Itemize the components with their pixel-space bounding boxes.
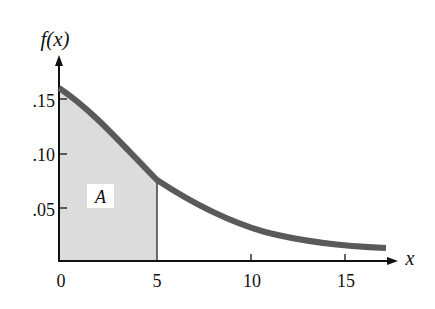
x-tick-label: 15 [337, 271, 355, 291]
x-tick-label: 10 [243, 271, 261, 291]
y-tick-label: .15 [33, 91, 56, 111]
area-label: A [94, 187, 107, 207]
y-tick-label: .10 [33, 145, 56, 165]
x-axis-arrow-icon [387, 257, 398, 265]
x-tick-label: 5 [153, 271, 162, 291]
x-axis-label: x [405, 247, 415, 269]
chart: A f(x) x .15 .10 .05 0 5 10 15 [0, 0, 435, 309]
shaded-area-a [59, 86, 157, 261]
y-tick-label: .05 [33, 200, 56, 220]
y-axis-label: f(x) [40, 27, 69, 51]
x-tick-label: 0 [57, 271, 66, 291]
y-axis-arrow-icon [55, 55, 63, 66]
